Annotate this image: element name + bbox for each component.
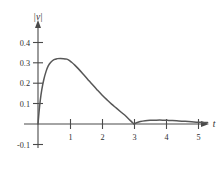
x-axis-title: t [213, 119, 216, 129]
chart-figure: 0.4 0.3 0.2 0.1 -0.1 1 2 3 4 5 |v| t [0, 0, 221, 169]
y-axis-title: |v| [33, 12, 42, 22]
y-tick-label-0: 0.4 [20, 39, 30, 48]
x-tick-label-1: 2 [100, 133, 104, 142]
y-tick-label-2: 0.2 [20, 79, 30, 88]
y-tick-label-4: -0.1 [17, 141, 30, 150]
y-tick-label-1: 0.3 [20, 59, 30, 68]
x-tick-label-4: 5 [196, 133, 200, 142]
data-curve-v-magnitude [38, 58, 208, 124]
plot-area: 0.4 0.3 0.2 0.1 -0.1 1 2 3 4 5 |v| t [0, 0, 221, 169]
y-tick-label-3: 0.1 [20, 100, 30, 109]
x-tick-label-0: 1 [68, 133, 72, 142]
x-tick-label-3: 4 [164, 133, 168, 142]
x-tick-label-2: 3 [132, 133, 136, 142]
